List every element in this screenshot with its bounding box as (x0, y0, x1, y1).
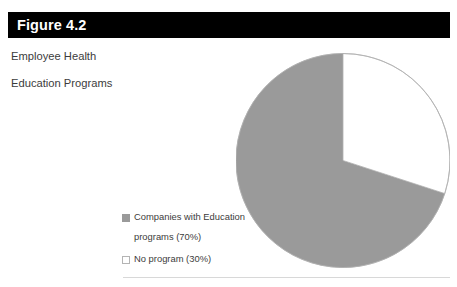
legend-label-companies-with-education-programs-line2: programs (70%) (134, 232, 257, 242)
figure-bottom-divider (123, 277, 450, 278)
pie-chart (236, 53, 450, 268)
legend-label-no-program: No program (30%) (134, 254, 211, 264)
chart-legend: Companies with Education programs (70%) … (122, 212, 257, 273)
figure-caption: Employee Health Education Programs (11, 51, 211, 105)
legend-item-companies-with-education-programs: Companies with Education (122, 212, 257, 222)
figure-header-bar: Figure 4.2 (8, 12, 450, 38)
caption-line-1: Employee Health (11, 51, 211, 62)
legend-label-companies-with-education-programs: Companies with Education (134, 212, 245, 222)
figure-label: Figure 4.2 (8, 18, 87, 33)
legend-item-no-program: No program (30%) (122, 254, 257, 264)
legend-swatch-hollow-white-square (122, 256, 130, 264)
caption-line-2: Education Programs (11, 78, 211, 89)
legend-swatch-filled-gray-square (122, 214, 130, 222)
